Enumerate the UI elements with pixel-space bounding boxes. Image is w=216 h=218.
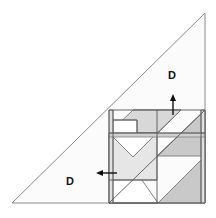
figure-canvas: D D xyxy=(0,0,216,218)
piece-strip-right-edge xyxy=(201,110,205,203)
label-d-lower: D xyxy=(66,175,74,187)
tangram-triangle-figure: D D xyxy=(0,0,216,218)
piece-small-rect-left xyxy=(113,120,137,133)
piece-strip-left-vertical xyxy=(109,110,113,203)
label-d-upper: D xyxy=(168,69,176,81)
